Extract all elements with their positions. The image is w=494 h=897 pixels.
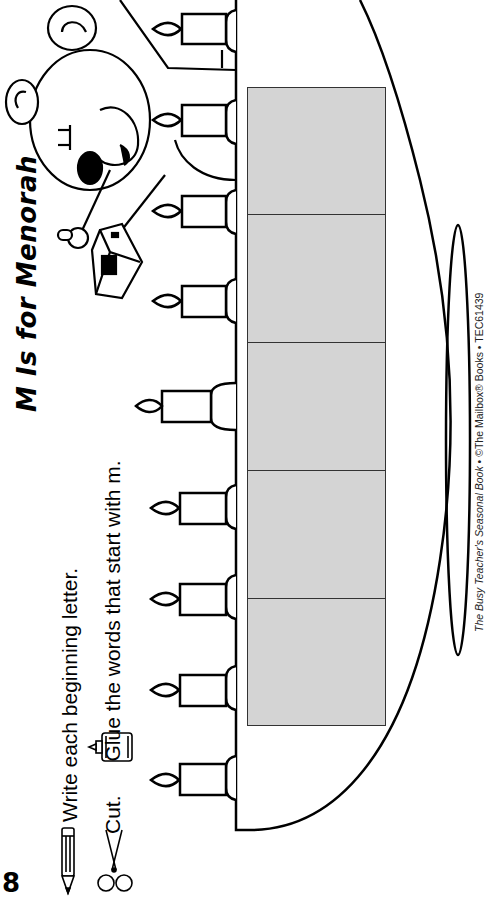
candle-icon (153, 190, 236, 234)
instruction-write: Write each beginning letter. (57, 568, 83, 822)
candle-icon (151, 575, 236, 619)
answer-box-4[interactable] (247, 470, 386, 599)
candle-icon (153, 100, 236, 144)
pencil-icon (62, 828, 74, 893)
candle-icon (153, 279, 236, 323)
title-prefix: M Is for (12, 287, 42, 412)
candle-icon (151, 756, 236, 800)
footer-code: TEC61439 (473, 293, 485, 343)
footer-separator-2: • (473, 343, 485, 352)
answer-box-1[interactable] (247, 87, 386, 215)
candle-icon (151, 666, 236, 710)
candles (136, 10, 236, 800)
candle-icon (153, 10, 236, 52)
dreidel-icon (92, 224, 142, 298)
instruction-cut-glue: Cut.Glue the words that start with m. (100, 460, 126, 834)
candle-icon (151, 485, 236, 529)
footer-book-title: The Busy Teacher's Seasonal Book (473, 466, 485, 632)
page-title: M Is for Menorah (12, 155, 42, 412)
answer-box-3[interactable] (247, 342, 386, 471)
footer-separator-1: • (473, 457, 485, 467)
title-emphasis: Menorah (12, 155, 42, 287)
answer-box-5[interactable] (247, 598, 386, 726)
answer-box-2[interactable] (247, 214, 386, 343)
footer-copyright: ©The Mailbox® Books (473, 352, 485, 457)
instruction-glue: Glue the words that start with m. (101, 460, 124, 761)
instruction-cut: Cut. (101, 795, 124, 834)
shamash-candle-icon (136, 383, 236, 430)
footer-credit: The Busy Teacher's Seasonal Book • ©The … (472, 293, 486, 632)
scissors-icon (98, 830, 132, 891)
page-number: 8 (2, 870, 20, 896)
